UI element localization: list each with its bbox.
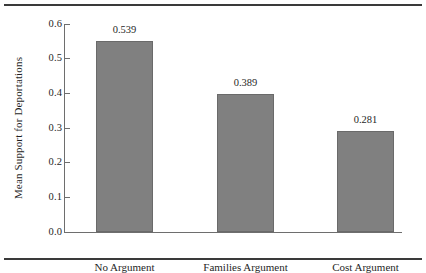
y-tick-label-1: 0.1 bbox=[49, 192, 62, 203]
y-tick-label-3: 0.3 bbox=[49, 123, 62, 134]
bar-value-label-0: 0.539 bbox=[96, 25, 153, 36]
y-axis-title: Mean Support for Deportations bbox=[12, 57, 24, 199]
x-category-label-2: Cost Argument bbox=[332, 262, 399, 273]
bar-chart-figure: Mean Support for Deportations 0.0 0.1 0.… bbox=[0, 0, 426, 273]
bar-no-argument[interactable] bbox=[96, 41, 153, 232]
plot-area: Mean Support for Deportations 0.0 0.1 0.… bbox=[64, 24, 410, 232]
bar-value-label-2: 0.281 bbox=[337, 115, 394, 126]
y-tick-label-0: 0.0 bbox=[49, 227, 62, 238]
x-category-label-1: Families Argument bbox=[203, 262, 287, 273]
top-horizontal-rule bbox=[4, 4, 422, 6]
bar-layer: 0.539 0.389 0.281 bbox=[64, 24, 410, 232]
y-tick-label-4: 0.4 bbox=[49, 88, 62, 99]
y-tick-label-6: 0.6 bbox=[49, 19, 62, 30]
bar-cost-argument[interactable] bbox=[337, 131, 394, 232]
bottom-horizontal-rule bbox=[4, 258, 422, 260]
bar-families-argument[interactable] bbox=[217, 94, 274, 232]
x-category-label-0: No Argument bbox=[95, 262, 155, 273]
y-tick-label-5: 0.5 bbox=[49, 53, 62, 64]
bar-value-label-1: 0.389 bbox=[217, 78, 274, 89]
x-axis-line bbox=[64, 232, 402, 233]
y-tick-label-2: 0.2 bbox=[49, 157, 62, 168]
